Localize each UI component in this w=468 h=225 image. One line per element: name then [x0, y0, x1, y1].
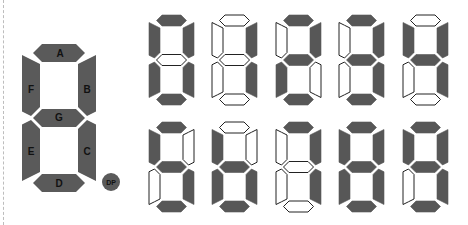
digit-1: [212, 15, 257, 105]
digit-3-segment-b: [373, 23, 384, 59]
digit-5-segment-b: [183, 130, 194, 166]
digit-9-segment-a: [411, 122, 441, 133]
digit-2-segment-c: [310, 62, 321, 98]
digit-9-segment-g: [411, 162, 441, 173]
reference-digit: ABCDEFGDP: [22, 44, 120, 192]
digit-6-segment-g: [220, 162, 250, 173]
digit-4-segment-f: [403, 23, 414, 59]
digit-0-segment-f: [149, 23, 160, 59]
digit-8-segment-g: [347, 162, 377, 173]
digit-5-segment-f: [149, 130, 160, 166]
digit-8-segment-e: [339, 169, 350, 205]
digit-5-segment-d: [157, 201, 187, 212]
digit-4-segment-a: [411, 15, 441, 26]
segment-label-a: A: [56, 48, 63, 59]
digit-2-segment-e: [276, 62, 287, 98]
digit-2-segment-a: [284, 15, 314, 26]
digit-6-segment-b: [246, 130, 257, 166]
digit-4-segment-b: [437, 23, 448, 59]
digit-2-segment-d: [284, 94, 314, 105]
segment-label-d: D: [55, 178, 62, 189]
digit-4-segment-g: [411, 55, 441, 66]
segment-label-g: G: [55, 112, 63, 123]
segment-label-e: E: [28, 146, 35, 157]
digit-9-segment-c: [437, 169, 448, 205]
digit-1-segment-a: [220, 15, 250, 26]
digit-5-segment-c: [183, 169, 194, 205]
digit-2-segment-g: [284, 55, 314, 66]
digit-6-segment-a: [220, 122, 250, 133]
digit-6-segment-c: [246, 169, 257, 205]
digit-1-segment-g: [220, 55, 250, 66]
digit-2-segment-f: [276, 23, 287, 59]
digit-1-segment-f: [212, 23, 223, 59]
digit-6-segment-d: [220, 201, 250, 212]
digit-4: [403, 15, 448, 105]
digit-0-segment-e: [149, 62, 160, 98]
seven-segment-diagram: ABCDEFGDP: [0, 0, 468, 225]
digit-4-segment-c: [437, 62, 448, 98]
digit-6: [212, 122, 257, 212]
digit-0-segment-b: [183, 23, 194, 59]
digit-6-segment-e: [212, 169, 223, 205]
digit-7-segment-b: [310, 130, 321, 166]
digit-8: [339, 122, 384, 212]
digit-7-segment-c: [310, 169, 321, 205]
digit-7-segment-e: [276, 169, 287, 205]
digit-6-segment-f: [212, 130, 223, 166]
digit-4-segment-d: [411, 94, 441, 105]
digit-7-segment-d: [284, 201, 314, 212]
digit-7-segment-f: [276, 130, 287, 166]
digit-5: [149, 122, 194, 212]
digit-1-segment-b: [246, 23, 257, 59]
digit-0-segment-g: [157, 55, 187, 66]
digit-5-segment-a: [157, 122, 187, 133]
digit-1-segment-d: [220, 94, 250, 105]
digit-0: [149, 15, 194, 105]
digit-3-segment-c: [373, 62, 384, 98]
digit-8-segment-a: [347, 122, 377, 133]
segment-label-b: B: [83, 84, 90, 95]
digit-7: [276, 122, 321, 212]
digit-2: [276, 15, 321, 105]
digit-9-segment-e: [403, 169, 414, 205]
digit-grid: [149, 15, 448, 212]
digit-7-segment-g: [284, 162, 314, 173]
digit-3: [339, 15, 384, 105]
digit-1-segment-c: [246, 62, 257, 98]
digit-2-segment-b: [310, 23, 321, 59]
digit-0-segment-d: [157, 94, 187, 105]
digit-9-segment-b: [437, 130, 448, 166]
segment-label-c: C: [83, 146, 90, 157]
digit-8-segment-d: [347, 201, 377, 212]
digit-3-segment-g: [347, 55, 377, 66]
digit-9-segment-f: [403, 130, 414, 166]
digit-9-segment-d: [411, 201, 441, 212]
digit-9: [403, 122, 448, 212]
digit-3-segment-e: [339, 62, 350, 98]
digit-0-segment-c: [183, 62, 194, 98]
digit-8-segment-c: [373, 169, 384, 205]
digit-4-segment-e: [403, 62, 414, 98]
digit-0-segment-a: [157, 15, 187, 26]
segment-label-f: F: [28, 84, 34, 95]
digit-7-segment-a: [284, 122, 314, 133]
digit-3-segment-f: [339, 23, 350, 59]
digit-1-segment-e: [212, 62, 223, 98]
digit-8-segment-f: [339, 130, 350, 166]
digit-8-segment-b: [373, 130, 384, 166]
digit-5-segment-e: [149, 169, 160, 205]
decimal-point-label: DP: [106, 179, 116, 186]
digit-5-segment-g: [157, 162, 187, 173]
digit-3-segment-d: [347, 94, 377, 105]
digit-3-segment-a: [347, 15, 377, 26]
